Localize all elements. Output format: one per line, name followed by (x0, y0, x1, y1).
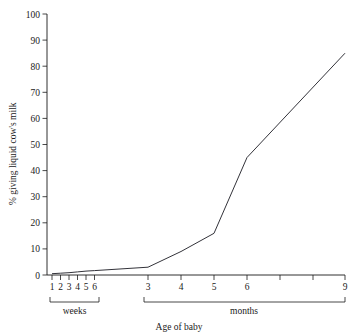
x-tick-label-month-3: 3 (146, 282, 151, 292)
x-axis-title: Age of baby (156, 322, 203, 332)
weeks-bracket (50, 297, 99, 302)
y-tick-label-90: 90 (31, 36, 41, 46)
x-tick-label-month-4: 4 (179, 282, 184, 292)
y-tick-label-70: 70 (31, 88, 41, 98)
y-tick-label-10: 10 (31, 244, 41, 254)
x-tick-label-week-6: 6 (92, 282, 97, 292)
y-axis-ticks (43, 14, 48, 275)
x-tick-label-month-6: 6 (245, 282, 250, 292)
x-tick-label-month-9: 9 (343, 282, 348, 292)
x-tick-label-week-1: 1 (50, 282, 55, 292)
y-tick-label-20: 20 (31, 218, 41, 228)
y-tick-label-0: 0 (35, 271, 40, 281)
x-axis-ticks-months (148, 275, 345, 280)
months-bracket (144, 297, 345, 302)
x-tick-label-week-3: 3 (67, 282, 72, 292)
y-tick-label-40: 40 (31, 166, 41, 176)
x-tick-label-week-4: 4 (75, 282, 80, 292)
weeks-group-label: weeks (63, 306, 87, 316)
y-tick-label-50: 50 (31, 140, 41, 150)
line-chart-svg: 100 90 80 70 60 50 40 30 20 10 0 % givin… (0, 0, 358, 335)
x-tick-label-week-2: 2 (58, 282, 63, 292)
x-axis-ticks-weeks (52, 275, 95, 280)
y-axis-title: % giving liquid cow's milk (8, 102, 18, 205)
x-tick-label-month-5: 5 (212, 282, 217, 292)
y-tick-label-30: 30 (31, 192, 41, 202)
y-tick-label-100: 100 (26, 10, 41, 20)
y-tick-label-80: 80 (31, 62, 41, 72)
chart-container: 100 90 80 70 60 50 40 30 20 10 0 % givin… (0, 0, 358, 335)
x-tick-label-week-5: 5 (84, 282, 89, 292)
y-tick-label-60: 60 (31, 114, 41, 124)
months-group-label: months (230, 306, 258, 316)
data-series-line (52, 53, 345, 274)
